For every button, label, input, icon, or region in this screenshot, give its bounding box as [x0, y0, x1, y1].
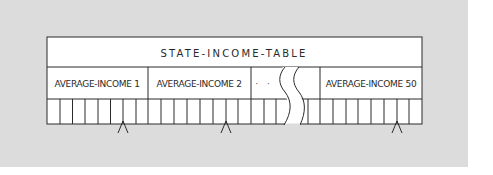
break-bottom-gap	[285, 124, 300, 126]
field-label-average-income-50: AVERAGE-INCOME 50	[326, 79, 417, 89]
state-income-table-diagram: STATE-INCOME-TABLE AVERAGE-INCOME 1 AVER…	[0, 0, 493, 175]
table-title: STATE-INCOME-TABLE	[160, 48, 307, 59]
field-label-average-income-1: AVERAGE-INCOME 1	[54, 79, 139, 89]
field-label-average-income-2: AVERAGE-INCOME 2	[156, 79, 241, 89]
